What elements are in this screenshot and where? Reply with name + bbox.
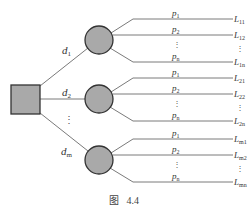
prob-label: p1 [171, 67, 180, 78]
decision-label-dm: dm [61, 145, 73, 159]
chance-node-2 [85, 85, 113, 113]
decision-ellipsis: ⋮ [64, 114, 74, 125]
loss-ellipsis: ⋮ [236, 164, 244, 173]
loss-label: Lmn [233, 177, 247, 188]
prob-ellipsis: ⋮ [173, 40, 181, 49]
loss-label: L11 [233, 14, 245, 25]
prob-ellipsis: ⋮ [173, 99, 181, 108]
root-edges [40, 48, 88, 151]
loss-ellipsis: ⋮ [236, 44, 244, 53]
chance-node-m [85, 146, 113, 174]
figure-caption: 图 4.4 [109, 195, 139, 206]
chance-node-1 [85, 26, 113, 54]
prob-label: p2 [171, 24, 180, 35]
loss-label: Lm1 [233, 134, 247, 145]
loss-label: L22 [233, 89, 245, 100]
loss-labels-node-m: Lm1 Lm2 ⋮ Lmn [233, 134, 247, 188]
loss-labels-node-2: L21 L22 ⋮ L2n [233, 73, 245, 127]
loss-label: L12 [233, 30, 245, 41]
prob-ellipsis: ⋮ [173, 160, 181, 169]
loss-ellipsis: ⋮ [236, 103, 244, 112]
prob-label: pn [171, 110, 180, 121]
decision-tree-diagram: d1 d2 ⋮ dm p1 p2 ⋮ pn L11 L12 ⋮ L1n p1 p… [0, 0, 252, 213]
loss-label: Lm2 [233, 150, 247, 161]
prob-label: pn [171, 171, 180, 182]
prob-label: p2 [171, 83, 180, 94]
decision-label-d1: d1 [62, 44, 72, 58]
prob-label: p1 [171, 8, 180, 19]
prob-label: p1 [171, 128, 180, 139]
root-decision-node [11, 85, 40, 114]
loss-label: L1n [233, 57, 245, 68]
loss-label: L21 [233, 73, 245, 84]
decision-label-d2: d2 [62, 86, 72, 100]
loss-labels-node-1: L11 L12 ⋮ L1n [233, 14, 245, 68]
loss-label: L2n [233, 116, 245, 127]
prob-label: p2 [171, 144, 180, 155]
prob-label: pn [171, 51, 180, 62]
